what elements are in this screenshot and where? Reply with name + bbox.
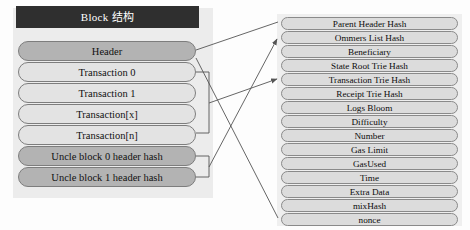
header-field-transaction-trie-hash: Transaction Trie Hash (281, 73, 458, 86)
block-row-header: Header (18, 41, 196, 61)
block-row-transaction-1: Transaction 1 (18, 83, 196, 103)
block-row-transaction-n: Transaction[n] (18, 125, 196, 145)
header-field-parent-header-hash: Parent Header Hash (281, 17, 458, 30)
header-field-time: Time (281, 171, 458, 184)
header-field-extra-data: Extra Data (281, 185, 458, 198)
block-row-transaction-x: Transaction[x] (18, 104, 196, 124)
page-title: Block 结构 (16, 6, 199, 28)
header-field-beneficiary: Beneficiary (281, 45, 458, 58)
header-field-logs-bloom: Logs Bloom (281, 101, 458, 114)
header-field-gas-limit: Gas Limit (281, 143, 458, 156)
header-field-state-root-trie-hash: State Root Trie Hash (281, 59, 458, 72)
connector-uncle-blocks-to-ommers-list-hash (209, 39, 277, 167)
header-field-receipt-trie-hash: Receipt Trie Hash (281, 87, 458, 100)
block-row-uncle-block-0-hash: Uncle block 0 header hash (18, 146, 196, 166)
header-field-difficulty: Difficulty (281, 115, 458, 128)
header-field-gas-used: GasUsed (281, 157, 458, 170)
connector-transactions-to-transaction-trie-hash (209, 79, 277, 103)
header-field-nonce: nonce (281, 213, 458, 226)
header-field-ommers-list-hash: Ommers List Hash (281, 31, 458, 44)
block-structure-diagram: Block 结构 Header Transaction 0 Transactio… (0, 0, 470, 230)
header-field-number: Number (281, 129, 458, 142)
block-row-transaction-0: Transaction 0 (18, 62, 196, 82)
block-row-uncle-block-1-hash: Uncle block 1 header hash (18, 167, 196, 187)
header-field-mix-hash: mixHash (281, 199, 458, 212)
